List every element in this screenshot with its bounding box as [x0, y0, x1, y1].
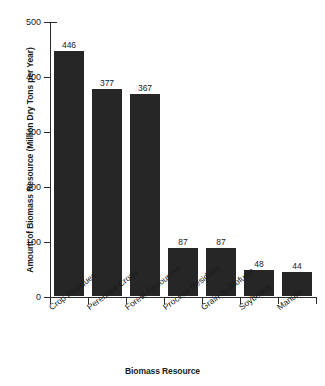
y-tick-label: 200 — [26, 182, 41, 192]
bar-value-label: 87 — [216, 237, 225, 247]
y-axis-top-cap — [50, 22, 57, 23]
y-tick: 200 — [44, 187, 50, 188]
bar-chart: Amount of Biomass Resource (Million Dry … — [0, 0, 325, 386]
bar-value-label: 87 — [178, 237, 187, 247]
y-tick-label: 0 — [36, 292, 41, 302]
y-axis-line — [50, 22, 51, 298]
bar-value-label: 367 — [138, 83, 152, 93]
y-tick-label: 500 — [26, 17, 41, 27]
bar-value-label: 48 — [254, 259, 263, 269]
y-tick-label: 100 — [26, 237, 41, 247]
y-tick-label: 400 — [26, 72, 41, 82]
bar — [54, 51, 84, 296]
bar-value-label: 44 — [292, 261, 301, 271]
y-tick: 500 — [44, 22, 50, 23]
y-tick: 100 — [44, 242, 50, 243]
x-tick — [316, 297, 317, 304]
y-tick: 400 — [44, 77, 50, 78]
bar-value-label: 446 — [62, 40, 76, 50]
bar — [92, 89, 122, 296]
bar-value-label: 377 — [100, 78, 114, 88]
y-axis-title: Amount of Biomass Resource (Million Dry … — [25, 10, 35, 310]
bar — [130, 94, 160, 296]
x-axis-title: Biomass Resource — [0, 366, 325, 376]
y-tick-label: 300 — [26, 127, 41, 137]
y-tick: 300 — [44, 132, 50, 133]
plot-area: 0100200300400500 44637736787874844 — [50, 22, 316, 297]
